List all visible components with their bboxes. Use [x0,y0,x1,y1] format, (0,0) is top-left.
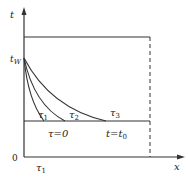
curve-label-tau3: τ3 [110,107,120,120]
x-axis-arrow-icon [177,155,185,160]
temperature-profile-diagram: t tW τ1 τ2 τ3 τ=0 t=t0 0 τ1 x [0,0,188,180]
final-region-label: t=t0 [106,128,127,141]
x-tick-label-tau1: τ1 [36,162,46,175]
wall-temperature-label: tW [10,54,22,66]
x-axis-label: x [174,161,180,172]
curve-label-tau1: τ1 [38,109,48,122]
curve-tau3 [24,58,106,121]
curve-tau2 [24,58,65,121]
origin-label: 0 [12,153,18,163]
y-axis-arrow-icon [22,7,27,15]
y-axis-label: t [10,9,15,20]
initial-region-label: τ=0 [48,128,69,139]
